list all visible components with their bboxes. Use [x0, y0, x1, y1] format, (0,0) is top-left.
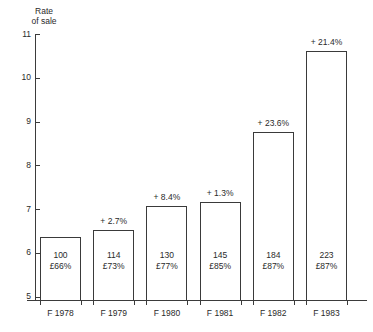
y-axis-line [35, 34, 36, 301]
bar: 130£77% [146, 206, 187, 300]
x-axis-category-label: F 1981 [192, 308, 249, 318]
bar: 100£66% [40, 237, 81, 300]
bar-index-value: 223 [307, 250, 346, 261]
y-axis-title: Rate of sale [14, 6, 74, 26]
x-axis-tick [81, 300, 82, 305]
bar-growth-annotation: + 1.3% [193, 189, 248, 198]
y-axis-tick-label: 9 [9, 117, 31, 126]
x-axis-category-label: F 1983 [298, 308, 355, 318]
bar-inner-label: 114£73% [94, 250, 133, 272]
y-axis-tick-label: 7 [9, 205, 31, 214]
bar-index-value: 100 [41, 250, 80, 261]
x-axis-tick [200, 300, 201, 305]
bar-inner-label: 223£87% [307, 250, 346, 272]
y-axis-tick [36, 34, 40, 35]
bar-index-value: 130 [147, 250, 186, 261]
y-axis-tick [36, 122, 40, 123]
y-axis-tick-label: 6 [9, 248, 31, 257]
x-axis-tick [146, 300, 147, 305]
bar-inner-label: 145£85% [201, 250, 240, 272]
bar: 114£73% [93, 230, 134, 300]
bar-inner-label: 130£77% [147, 250, 186, 272]
y-axis-tick [36, 165, 40, 166]
bar-growth-annotation: + 2.7% [86, 217, 141, 226]
y-axis-tick-label: 11 [9, 30, 31, 39]
bar-growth-annotation: + 23.6% [246, 119, 301, 128]
y-axis-tick-label: 10 [9, 73, 31, 82]
bar-chart: Rate of sale 111098765 100£66%F 1978114£… [0, 0, 373, 332]
bar-price-value: £87% [307, 261, 346, 272]
bar-price-value: £77% [147, 261, 186, 272]
y-axis-tick [36, 209, 40, 210]
bar-inner-label: 100£66% [41, 250, 80, 272]
bar-index-value: 184 [254, 250, 293, 261]
bar: 145£85% [200, 202, 241, 300]
bar-price-value: £66% [41, 261, 80, 272]
x-axis-tick [241, 300, 242, 305]
bar: 223£87% [306, 51, 347, 300]
x-axis-category-label: F 1982 [245, 308, 302, 318]
y-axis-title-line2: of sale [14, 16, 74, 26]
x-axis-tick [93, 300, 94, 305]
x-axis-baseline [27, 300, 367, 301]
x-axis-category-label: F 1980 [138, 308, 195, 318]
bar: 184£87% [253, 132, 294, 300]
x-axis-category-label: F 1978 [32, 308, 89, 318]
x-axis-category-label: F 1979 [85, 308, 142, 318]
bar-index-value: 145 [201, 250, 240, 261]
x-axis-tick [306, 300, 307, 305]
bar-index-value: 114 [94, 250, 133, 261]
x-axis-tick [134, 300, 135, 305]
y-axis-title-line1: Rate [14, 6, 74, 16]
bar-growth-annotation: + 21.4% [299, 38, 354, 47]
bar-price-value: £87% [254, 261, 293, 272]
x-axis-tick [253, 300, 254, 305]
x-axis-tick [294, 300, 295, 305]
x-axis-tick [347, 300, 348, 305]
bar-growth-annotation: + 8.4% [139, 193, 194, 202]
y-axis-tick [36, 78, 40, 79]
bar-price-value: £73% [94, 261, 133, 272]
x-axis-tick [187, 300, 188, 305]
x-axis-tick [40, 300, 41, 305]
bar-price-value: £85% [201, 261, 240, 272]
y-axis-tick-label: 8 [9, 161, 31, 170]
bar-inner-label: 184£87% [254, 250, 293, 272]
